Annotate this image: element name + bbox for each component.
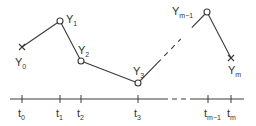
point-label: Ym (228, 64, 241, 78)
tick-label: t3 (134, 107, 141, 121)
series-lines (22, 12, 231, 83)
series-segment (81, 61, 138, 83)
point-markers (19, 9, 234, 86)
circle-marker-icon (78, 58, 84, 64)
point-label: Y2 (78, 44, 89, 58)
x-marker-icon (228, 55, 234, 61)
point-labels: Y0Y1Y2Y3Ym−1Ym (15, 5, 241, 79)
point-label: Y3 (133, 65, 144, 79)
time-series-diagram: t0t1t2t3tm−1tm Y0Y1Y2Y3Ym−1Ym (0, 0, 256, 126)
tick-label: t1 (56, 107, 63, 121)
tick-label: t0 (18, 107, 25, 121)
tick-label: tm (227, 107, 236, 121)
series-segment (207, 12, 231, 58)
point-label: Ym−1 (172, 5, 193, 19)
time-axis: t0t1t2t3tm−1tm (10, 95, 244, 121)
point-label: Y0 (15, 56, 26, 70)
point-label: Y1 (66, 13, 77, 27)
circle-marker-icon (204, 9, 210, 15)
series-segment-dashed (157, 39, 180, 63)
series-segment (22, 21, 60, 47)
circle-marker-icon (57, 18, 63, 24)
tick-label: t2 (77, 107, 84, 121)
tick-label: tm−1 (204, 107, 221, 121)
circle-marker-icon (135, 80, 141, 86)
x-marker-icon (19, 44, 25, 50)
